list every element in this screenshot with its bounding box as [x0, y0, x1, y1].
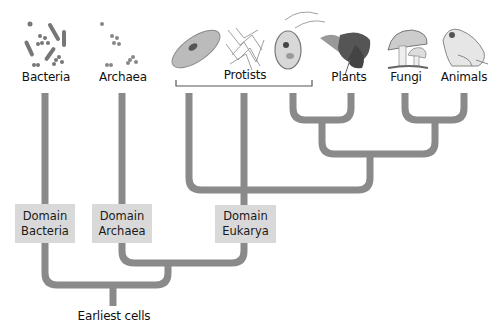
bacteria-icon — [24, 22, 66, 68]
euglena-icon — [275, 12, 325, 69]
organism-illustrations — [0, 0, 501, 331]
domain-eukarya-line1: Domain — [223, 209, 268, 224]
protists-icon — [166, 12, 325, 75]
domain-bacteria-line2: Bacteria — [21, 224, 69, 239]
mushroom-icon — [388, 30, 428, 68]
archaea-icon — [100, 22, 138, 67]
label-earliest-cells: Earliest cells — [78, 309, 151, 323]
label-animals: Animals — [441, 70, 487, 84]
domain-eukarya-line2: Eukarya — [222, 224, 269, 239]
paramecium-icon — [166, 23, 226, 75]
label-plants: Plants — [331, 70, 366, 84]
domain-eukarya-box: Domain Eukarya — [215, 205, 276, 243]
label-bacteria: Bacteria — [22, 70, 70, 84]
phylogenetic-tree-diagram: Bacteria Archaea Protists Plants Fungi A… — [0, 0, 501, 331]
label-fungi: Fungi — [390, 70, 421, 84]
label-protists: Protists — [224, 68, 267, 82]
domain-archaea-line2: Archaea — [98, 224, 145, 239]
plant-icon — [320, 32, 370, 75]
domain-bacteria-line1: Domain — [23, 209, 68, 224]
domain-archaea-box: Domain Archaea — [92, 204, 152, 243]
domain-archaea-line1: Domain — [100, 209, 145, 224]
label-archaea: Archaea — [99, 70, 147, 84]
domain-bacteria-box: Domain Bacteria — [15, 204, 75, 243]
slime-mold-icon — [226, 28, 264, 70]
frog-icon — [443, 29, 488, 66]
